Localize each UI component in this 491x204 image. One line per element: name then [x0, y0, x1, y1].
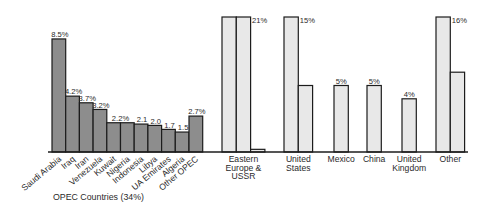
non-opec-bar-segment — [402, 99, 416, 152]
bar-value-label: 16% — [452, 16, 467, 25]
non-opec-bar-segment — [450, 72, 464, 152]
opec-bar — [52, 39, 66, 152]
opec-bar — [189, 116, 203, 152]
bar-value-label: 2.7% — [188, 107, 206, 116]
chart-plot-area: 8.5%4.2%3.7%3.2%2.2%2.12.01.71.52.7% 21%… — [0, 0, 491, 204]
bar-value-label: 2.2% — [112, 114, 130, 123]
non-opec-category-label: USSR — [232, 171, 256, 181]
non-opec-bar-segment — [284, 17, 298, 152]
bar-value-label: 1.5 — [178, 123, 189, 132]
non-opec-category-label: China — [363, 154, 386, 164]
non-opec-bar-segment — [222, 17, 236, 152]
bar-value-label: 2.0 — [150, 117, 161, 126]
non-opec-category-label: States — [286, 163, 310, 173]
bar-value-label: 8.5% — [51, 30, 69, 39]
opec-category-labels: Saudi ArabiaIraqIranVenezuelaKuwaitNiger… — [19, 153, 200, 192]
non-opec-category-label: Mexico — [328, 154, 355, 164]
opec-bar-group: 8.5%4.2%3.7%3.2%2.2%2.12.01.71.52.7% — [51, 30, 206, 152]
opec-bar — [107, 123, 121, 152]
non-opec-bar-segment — [367, 86, 381, 153]
opec-bar — [66, 96, 80, 152]
opec-bar — [79, 103, 93, 152]
opec-bar — [134, 124, 148, 152]
bar-value-label: 1.7 — [164, 121, 175, 130]
bar-value-label: 21% — [252, 16, 267, 25]
bar-value-label: 5% — [336, 77, 347, 86]
oil-reserves-chart: 8.5%4.2%3.7%3.2%2.2%2.12.01.71.52.7% 21%… — [0, 0, 491, 204]
opec-bar — [148, 125, 162, 152]
opec-bar — [162, 129, 176, 152]
non-opec-category-label: Kingdom — [392, 163, 426, 173]
non-opec-category-label: Other — [440, 154, 462, 164]
non-opec-bar-group: 21%15%5%5%4%16% — [222, 16, 467, 152]
bar-value-label: 2.1 — [137, 115, 148, 124]
non-opec-category-labels: EasternEurope &USSRUnitedStatesMexicoChi… — [226, 154, 462, 181]
non-opec-bar-segment — [334, 86, 348, 153]
opec-group-label: OPEC Countries (34%) — [53, 192, 144, 202]
opec-bar — [93, 109, 107, 152]
non-opec-bar-segment — [298, 86, 312, 153]
non-opec-bar-segment — [436, 17, 450, 152]
bar-value-label: 3.2% — [92, 101, 110, 110]
non-opec-bar-segment — [236, 17, 250, 152]
opec-category-label: Saudi Arabia — [19, 154, 63, 193]
bar-value-label: 15% — [300, 16, 315, 25]
bar-value-label: 5% — [369, 77, 380, 86]
opec-bar — [175, 132, 189, 152]
bar-value-label: 4% — [404, 90, 415, 99]
opec-bar — [121, 123, 135, 152]
